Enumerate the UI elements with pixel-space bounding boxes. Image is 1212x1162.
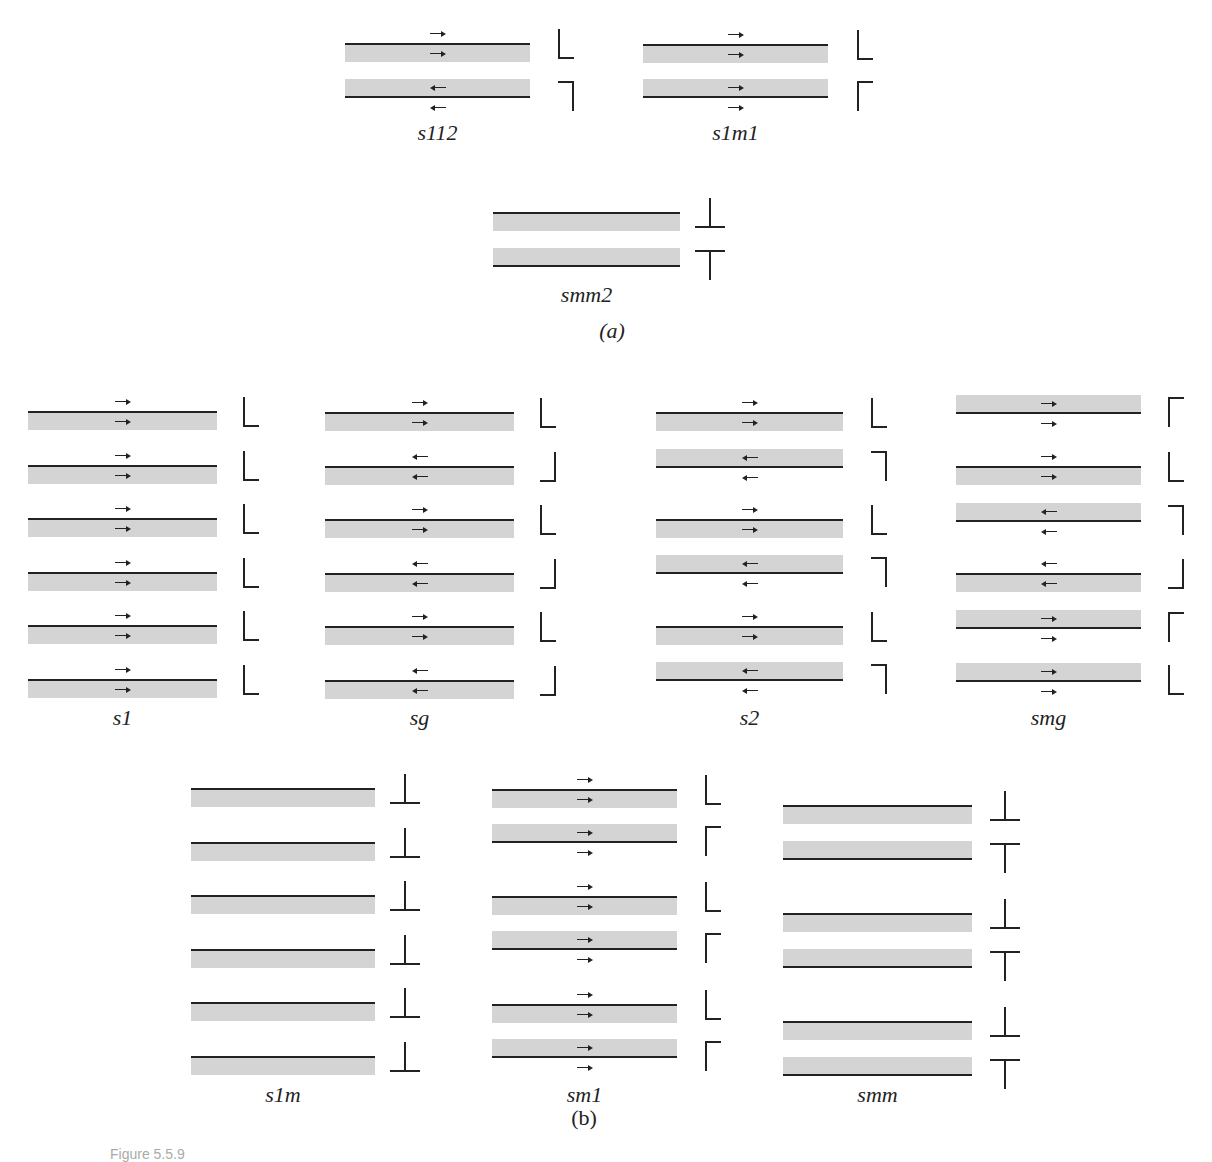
layer-s1m-3 (191, 895, 375, 913)
arrow-right-icon (1041, 616, 1057, 622)
group-label-s2: s2 (740, 705, 760, 731)
arrow-right-icon (115, 580, 131, 586)
layer-fill (783, 915, 972, 932)
arrow-left-icon (430, 105, 446, 111)
T-glyph-icon (695, 250, 725, 280)
arrow-right-icon (577, 957, 593, 963)
layer-smm-1 (783, 805, 972, 823)
layer-boundary-line (492, 896, 677, 898)
backwards-L-top-glyph-icon (1168, 505, 1184, 535)
gamma-glyph-icon (1168, 612, 1184, 642)
layer-smm-4 (783, 949, 972, 967)
layer-boundary-line (783, 1021, 972, 1023)
arrow-right-icon (728, 32, 744, 38)
gamma-glyph-icon (857, 81, 873, 111)
arrow-right-icon (577, 1045, 593, 1051)
layer-boundary-line (492, 948, 677, 950)
layer-boundary-line (956, 466, 1141, 468)
arrow-left-icon (412, 454, 428, 460)
layer-boundary-line (325, 573, 514, 575)
figure-caption: Figure 5.5.9 (110, 1146, 185, 1162)
L-glyph-icon (705, 990, 721, 1020)
layer-boundary-line (191, 895, 375, 897)
layer-boundary-line (493, 265, 680, 267)
arrow-right-icon (577, 830, 593, 836)
layer-s1m-6 (191, 1056, 375, 1074)
gamma-glyph-icon (705, 1041, 721, 1071)
L-glyph-icon (243, 397, 259, 427)
backwards-L-top-glyph-icon (871, 557, 887, 587)
layer-boundary-line (956, 573, 1141, 575)
inverted-T-glyph-icon (390, 988, 420, 1018)
arrow-right-icon (115, 633, 131, 639)
arrow-right-icon (430, 51, 446, 57)
group-label-smg: smg (1031, 705, 1066, 731)
arrow-right-icon (430, 31, 446, 37)
layer-smm-6 (783, 1057, 972, 1075)
arrow-right-icon (412, 400, 428, 406)
arrow-right-icon (577, 797, 593, 803)
backwards-L-glyph-icon (540, 452, 556, 482)
layer-boundary-line (656, 466, 843, 468)
layer-fill (191, 1058, 375, 1075)
backwards-L-top-glyph-icon (558, 81, 574, 111)
arrow-right-icon (115, 419, 131, 425)
layer-smm-5 (783, 1021, 972, 1039)
layer-boundary-line (656, 412, 843, 414)
arrow-left-icon (742, 668, 758, 674)
arrow-right-icon (412, 507, 428, 513)
gamma-glyph-icon (1168, 397, 1184, 427)
inverted-T-glyph-icon (390, 774, 420, 804)
arrow-right-icon (742, 507, 758, 513)
layer-smm2-2 (493, 248, 680, 266)
layer-boundary-line (325, 519, 514, 521)
L-glyph-icon (705, 882, 721, 912)
arrow-left-icon (412, 581, 428, 587)
arrow-right-icon (1041, 474, 1057, 480)
layer-boundary-line (956, 520, 1141, 522)
arrow-right-icon (1041, 421, 1057, 427)
layer-boundary-line (956, 412, 1141, 414)
layer-fill (783, 949, 972, 966)
arrow-right-icon (1041, 636, 1057, 642)
L-glyph-icon (857, 30, 873, 60)
arrow-left-icon (412, 668, 428, 674)
layer-boundary-line (325, 680, 514, 682)
layer-boundary-line (191, 949, 375, 951)
layer-boundary-line (28, 411, 217, 413)
layer-fill (783, 807, 972, 824)
arrow-right-icon (115, 473, 131, 479)
layer-s1m-4 (191, 949, 375, 967)
layer-smm2-1 (493, 212, 680, 230)
L-glyph-icon (243, 504, 259, 534)
layer-fill (191, 1004, 375, 1021)
layer-fill (191, 951, 375, 968)
layer-boundary-line (783, 1074, 972, 1076)
arrow-right-icon (115, 526, 131, 532)
layer-boundary-line (492, 1004, 677, 1006)
arrow-left-icon (412, 688, 428, 694)
backwards-L-glyph-icon (540, 559, 556, 589)
layer-boundary-line (492, 1056, 677, 1058)
layer-boundary-line (656, 679, 843, 681)
L-glyph-icon (871, 612, 887, 642)
layer-boundary-line (191, 1056, 375, 1058)
arrow-left-icon (1041, 581, 1057, 587)
group-label-s1m1: s1m1 (712, 120, 758, 146)
layer-smm-2 (783, 841, 972, 859)
arrow-right-icon (742, 634, 758, 640)
arrow-left-icon (742, 581, 758, 587)
arrow-right-icon (412, 420, 428, 426)
layer-boundary-line (325, 626, 514, 628)
arrow-left-icon (742, 475, 758, 481)
backwards-L-glyph-icon (1168, 559, 1184, 589)
gamma-glyph-icon (705, 826, 721, 856)
layer-boundary-line (28, 465, 217, 467)
arrow-right-icon (728, 52, 744, 58)
arrow-right-icon (577, 1012, 593, 1018)
arrow-left-icon (742, 561, 758, 567)
L-glyph-icon (540, 505, 556, 535)
layer-smm-3 (783, 913, 972, 931)
layer-boundary-line (643, 96, 828, 98)
T-glyph-icon (990, 843, 1020, 873)
